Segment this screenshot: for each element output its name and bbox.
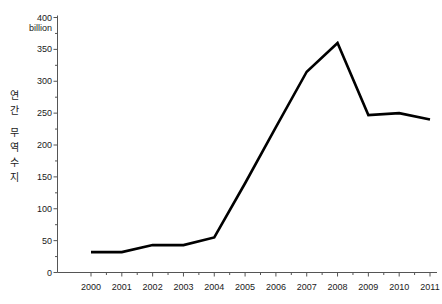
series-line-0 bbox=[91, 43, 430, 252]
data-series bbox=[91, 43, 430, 252]
plot-area bbox=[0, 0, 442, 304]
trade-balance-line-chart: 연 간 무 역 수 지 billion 05010015020025030035… bbox=[0, 0, 442, 304]
axes bbox=[54, 16, 438, 277]
